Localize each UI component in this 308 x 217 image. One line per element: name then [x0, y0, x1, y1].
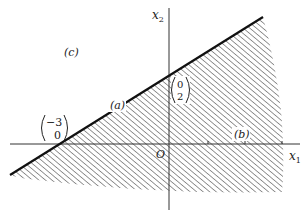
origin-label: O	[156, 148, 165, 161]
point-x-intercept: −3 0	[42, 115, 68, 142]
x1-axis-label: x1	[289, 149, 301, 165]
svg-text:0: 0	[54, 129, 61, 142]
region-label-b: (b)	[234, 128, 250, 141]
svg-text:0: 0	[177, 79, 183, 90]
line-label-a: (a)	[110, 99, 125, 112]
svg-text:2: 2	[177, 91, 183, 102]
feasible-region-diagram: x2 x1 O (c) (a) (b) −3 0 0 2	[0, 0, 308, 217]
hatched-region	[10, 17, 283, 192]
x2-axis-label: x2	[152, 8, 164, 24]
point-y-intercept: 0 2	[171, 76, 190, 104]
svg-text:−3: −3	[46, 116, 62, 129]
panel-label: (c)	[64, 46, 79, 59]
